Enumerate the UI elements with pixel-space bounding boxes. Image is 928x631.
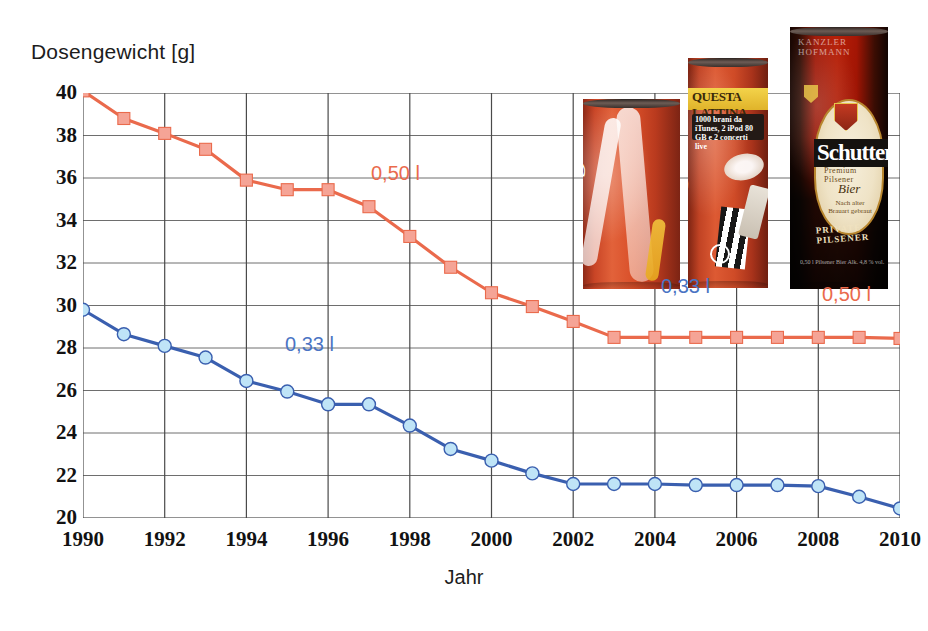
data-point <box>83 93 89 97</box>
chart-root: Dosengewicht [g] Jahr 40 38 36 34 32 30 … <box>0 0 928 631</box>
plot-area <box>83 93 900 518</box>
x-tick-1990: 1990 <box>38 527 128 552</box>
data-point <box>608 478 621 491</box>
x-tick-1998: 1998 <box>365 527 455 552</box>
data-point <box>567 315 579 327</box>
data-point <box>853 331 865 343</box>
data-point <box>608 331 620 343</box>
data-point <box>83 303 90 316</box>
data-point <box>158 339 171 352</box>
data-point <box>362 398 375 411</box>
data-point <box>526 301 538 313</box>
data-point <box>771 331 783 343</box>
data-point <box>444 442 457 455</box>
data-point <box>567 478 580 491</box>
coca-cola-questa-lattina-can: QUESTA LATTINA 1000 brani da iTunes, 2 i… <box>688 58 768 288</box>
data-point <box>894 332 900 344</box>
y-tick-38: 38 <box>31 123 77 148</box>
data-point <box>281 184 293 196</box>
y-axis-title: Dosengewicht [g] <box>31 40 195 64</box>
x-tick-1994: 1994 <box>201 527 291 552</box>
schutter-bier-can: KANZLER HOFMANN Schutter Premium Pilsene… <box>790 27 888 289</box>
data-point <box>649 331 661 343</box>
data-point <box>240 374 253 387</box>
coca-cola-033-can: Coca-Cola <box>583 99 680 289</box>
y-tick-40: 40 <box>31 80 77 105</box>
y-tick-28: 28 <box>31 335 77 360</box>
data-point <box>689 479 702 492</box>
data-point <box>485 454 498 467</box>
data-point <box>812 331 824 343</box>
can-rim-icon <box>688 58 768 67</box>
y-tick-36: 36 <box>31 165 77 190</box>
can-rim-icon <box>583 99 680 108</box>
x-tick-2006: 2006 <box>692 527 782 552</box>
x-axis-title: Jahr <box>0 566 928 589</box>
data-point <box>731 331 743 343</box>
y-tick-32: 32 <box>31 250 77 275</box>
x-tick-2004: 2004 <box>610 527 700 552</box>
data-point <box>281 385 294 398</box>
x-tick-2010: 2010 <box>855 527 928 552</box>
data-point <box>526 467 539 480</box>
series-label-050: 0,50 l <box>371 162 420 185</box>
series-label-033: 0,33 l <box>285 333 334 356</box>
data-point <box>486 287 498 299</box>
x-tick-2000: 2000 <box>447 527 537 552</box>
y-tick-22: 22 <box>31 463 77 488</box>
y-tick-26: 26 <box>31 378 77 403</box>
data-point <box>445 261 457 273</box>
x-tick-2002: 2002 <box>528 527 618 552</box>
data-point <box>648 478 661 491</box>
data-point <box>853 490 866 503</box>
can-rim-icon <box>790 27 888 36</box>
data-point <box>363 201 375 213</box>
can-caption-033: 0,33 l <box>661 275 710 298</box>
y-tick-30: 30 <box>31 293 77 318</box>
data-point <box>322 398 335 411</box>
y-tick-24: 24 <box>31 420 77 445</box>
x-tick-1996: 1996 <box>283 527 373 552</box>
data-point <box>159 127 171 139</box>
x-tick-1992: 1992 <box>120 527 210 552</box>
data-point <box>771 479 784 492</box>
data-point <box>690 331 702 343</box>
y-tick-34: 34 <box>31 208 77 233</box>
data-point <box>118 113 130 125</box>
x-tick-2008: 2008 <box>773 527 863 552</box>
data-point <box>403 419 416 432</box>
data-point <box>404 230 416 242</box>
data-point <box>200 143 212 155</box>
can-caption-050: 0,50 l <box>822 283 871 306</box>
data-point <box>199 351 212 364</box>
data-point <box>730 479 743 492</box>
data-point <box>117 328 130 341</box>
data-point <box>322 184 334 196</box>
data-point <box>240 174 252 186</box>
plot-svg <box>83 93 900 518</box>
data-point <box>812 480 825 493</box>
data-point <box>894 502 901 515</box>
